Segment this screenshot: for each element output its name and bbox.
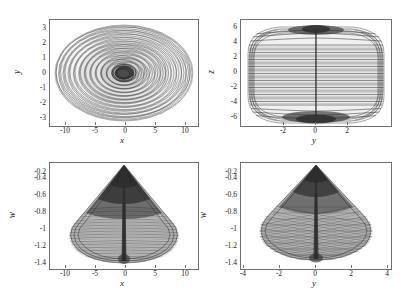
panel-xw-ytick-label: -0.2 (22, 167, 46, 176)
panel-xy-xtick-mark (65, 122, 66, 125)
panel-yw-ytick-label: -1 (213, 224, 237, 233)
panel-xw-attractor (50, 163, 198, 269)
panel-xy-xtick-mark (155, 122, 156, 125)
panel-xw-yaxis-label: w (7, 212, 17, 218)
panel-xy-xtick-mark (95, 122, 96, 125)
panel-yz-ytick-label: 6 (222, 22, 237, 31)
panel-yz-xtick-mark (315, 122, 316, 125)
panel-yw-ytick-label: -0.6 (213, 190, 237, 199)
figure-four-phase-portraits: -10 -5 0 5 10 -3 -2 -1 0 1 2 3 x y (0, 0, 413, 297)
panel-yw-xtick-label: 2 (349, 269, 353, 278)
panel-yz-attractor (241, 20, 391, 126)
panel-yz-ytick-label: 2 (222, 52, 237, 61)
panel-yz-xtick-mark (283, 122, 284, 125)
panel-xy-ytick-label: -1 (30, 83, 46, 92)
panel-yw-xtick-label: 4 (385, 269, 389, 278)
panel-yz-yaxis-label: z (206, 70, 216, 74)
panel-yw-ytick-label: -0.2 (213, 167, 237, 176)
panel-xw-xtick-label: -10 (60, 269, 70, 278)
panel-xw-xtick-label: -5 (92, 269, 98, 278)
panel-xy-xtick-label: 5 (153, 126, 157, 135)
panel-yw-xtick-mark (279, 265, 280, 268)
panel-yz-xtick-label: 2 (345, 126, 349, 135)
panel-xw-xtick-mark (155, 265, 156, 268)
panel-xy-xtick-mark (125, 122, 126, 125)
panel-yw-xtick-mark (351, 265, 352, 268)
panel-yw-ytick-label: -1.2 (213, 241, 237, 250)
panel-xy-xtick-mark (185, 122, 186, 125)
panel-xw-ytick-label: -0.6 (22, 190, 46, 199)
panel-yw-xtick-label: -4 (240, 269, 246, 278)
panel-xy-xtick-label: 10 (181, 126, 189, 135)
panel-xw-frame (49, 162, 199, 270)
panel-yw-ytick-label: -0.8 (213, 207, 237, 216)
panel-xy-xtick-label: 0 (123, 126, 127, 135)
panel-yz-xtick-label: 0 (313, 126, 317, 135)
panel-yz-ytick-label: -6 (222, 112, 237, 121)
panel-yz-ytick-label: 0 (222, 67, 237, 76)
panel-xw-xtick-label: 0 (123, 269, 127, 278)
panel-xy-frame (49, 19, 199, 127)
panel-yz-ytick-label: -4 (222, 97, 237, 106)
panel-yw-xaxis-label: y (312, 278, 316, 288)
panel-yw-xtick-label: 0 (313, 269, 317, 278)
panel-yz-ytick-label: 4 (222, 37, 237, 46)
panel-xw-xtick-label: 10 (181, 269, 189, 278)
panel-xw-ytick-label: -1.2 (22, 241, 46, 250)
panel-yz-xtick-label: -2 (280, 126, 286, 135)
panel-xw-xtick-label: 5 (153, 269, 157, 278)
panel-yz-ytick-label: -2 (222, 82, 237, 91)
panel-yw-attractor (241, 163, 391, 269)
panel-xw-ytick-label: -0.8 (22, 207, 46, 216)
panel-yz-frame (240, 19, 392, 127)
panel-yw-yaxis-label: w (198, 212, 208, 218)
panel-xw-ytick-label: -1.4 (22, 258, 46, 267)
panel-yw-xtick-mark (387, 265, 388, 268)
panel-xw-xtick-mark (185, 265, 186, 268)
panel-yw-xtick-mark (315, 265, 316, 268)
panel-xy-ytick-label: 3 (30, 23, 46, 32)
panel-xy-ytick-label: -3 (30, 113, 46, 122)
panel-xy-attractor (50, 20, 198, 126)
panel-xw-ytick-label: -1 (22, 224, 46, 233)
panel-yz-xaxis-label: y (312, 135, 316, 145)
panel-yw-frame (240, 162, 392, 270)
panel-xw-xaxis-label: x (120, 278, 124, 288)
panel-yw-xtick-mark (243, 265, 244, 268)
panel-xy-ytick-label: 2 (30, 38, 46, 47)
panel-xy-ytick-label: -2 (30, 98, 46, 107)
panel-xw-xtick-mark (95, 265, 96, 268)
panel-yz-xtick-mark (347, 122, 348, 125)
panel-xw-xtick-mark (65, 265, 66, 268)
panel-xy-xaxis-label: x (120, 135, 124, 145)
panel-xy-xtick-label: -5 (92, 126, 98, 135)
panel-xw-xtick-mark (125, 265, 126, 268)
panel-yw-xtick-label: -2 (276, 269, 282, 278)
panel-xy-xtick-label: -10 (60, 126, 70, 135)
panel-xy-ytick-label: 1 (30, 53, 46, 62)
panel-yw-ytick-label: -1.4 (213, 258, 237, 267)
panel-xy-yaxis-label: y (12, 70, 22, 74)
panel-xy-ytick-label: 0 (30, 68, 46, 77)
